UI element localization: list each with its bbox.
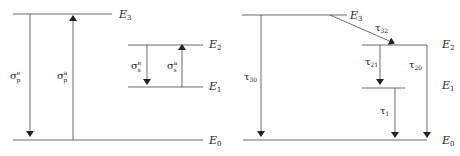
label-sigma-s-a: σas [167,59,178,73]
label-tau-1: τ1 [380,105,389,117]
label-e1: E1 [208,80,222,94]
label-e2: E2 [208,38,222,52]
energy-level-diagram: E3 E2 E1 E0 σep σap σes σas E3 E2 E1 E0 … [0,0,460,156]
label-tau-21: τ21 [365,56,378,68]
label-e0: E0 [441,134,455,148]
label-tau-30: τ30 [244,71,257,83]
label-tau-20: τ20 [409,59,422,71]
label-sigma-p-a: σap [57,69,68,84]
label-e1: E1 [441,79,455,93]
label-sigma-s-e: σes [131,59,142,73]
label-e0: E0 [208,134,222,148]
label-e3: E3 [349,9,363,23]
label-e3: E3 [118,8,132,22]
left-diagram [13,14,203,140]
label-e2: E2 [441,38,455,52]
label-tau-32: τ32 [375,22,388,34]
label-sigma-p-e: σep [10,69,21,84]
right-diagram [242,15,427,140]
left-labels: E3 E2 E1 E0 σep σap σes σas [10,8,222,148]
right-labels: E3 E2 E1 E0 τ30 τ32 τ21 τ20 τ1 [244,9,455,148]
